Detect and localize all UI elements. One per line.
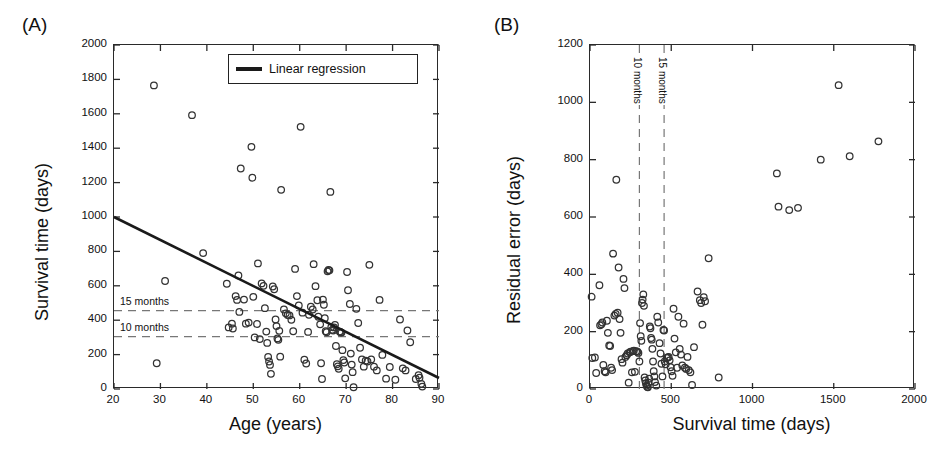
- panel-a-ytick-400: 400: [63, 312, 107, 324]
- panel-a-ytick-1400: 1400: [63, 140, 107, 152]
- panel-b-xtick-500: 500: [645, 393, 695, 405]
- panel-b-xtick-2000: 2000: [889, 393, 939, 405]
- panel-b-label: (B): [494, 14, 519, 36]
- panel-a-legend[interactable]: Linear regression: [228, 54, 418, 84]
- panel-a-ytick-1200: 1200: [63, 175, 107, 187]
- panel-b-ytick-800: 800: [539, 152, 583, 164]
- panel-a-ytick-800: 800: [63, 243, 107, 255]
- panel-b-xtick-1500: 1500: [808, 393, 858, 405]
- panel-b-y-axis-label: Residual error (days): [504, 156, 525, 324]
- panel-a-xtick-40: 40: [181, 393, 231, 405]
- panel-a-plot-area: [113, 44, 438, 388]
- panel-a-x-axis-label: Age (years): [113, 414, 438, 435]
- panel-b-ytick-1000: 1000: [539, 94, 583, 106]
- panel-a-ytick-2000: 2000: [63, 37, 107, 49]
- legend-label-linear-regression: Linear regression: [269, 62, 366, 76]
- figure-container: (A) Survival time (days) Age (years) 020…: [0, 0, 952, 462]
- panel-a-xtick-50: 50: [227, 393, 277, 405]
- panel-a: (A) Survival time (days) Age (years) 020…: [0, 0, 476, 462]
- panel-b: (B) Residual error (days) Survival time …: [476, 0, 952, 462]
- panel-b-ytick-0: 0: [539, 381, 583, 393]
- panel-b-ytick-600: 600: [539, 209, 583, 221]
- panel-a-ytick-1600: 1600: [63, 106, 107, 118]
- panel-a-label: (A): [22, 14, 47, 36]
- panel-a-ytick-1800: 1800: [63, 71, 107, 83]
- panel-a-xtick-30: 30: [134, 393, 184, 405]
- panel-b-threshold-label-10mo: 10 months: [632, 56, 643, 105]
- panel-a-scatter-svg: [114, 45, 439, 389]
- linear-regression-swatch: [236, 67, 262, 70]
- panel-a-xtick-60: 60: [274, 393, 324, 405]
- panel-a-threshold-label-15mo: 15 months: [119, 295, 170, 307]
- panel-a-threshold-label-10mo: 10 months: [119, 321, 170, 333]
- panel-a-ytick-1000: 1000: [63, 209, 107, 221]
- panel-b-ytick-1200: 1200: [539, 37, 583, 49]
- panel-a-y-axis-label: Survival time (days): [32, 163, 53, 321]
- panel-b-xtick-1000: 1000: [727, 393, 777, 405]
- panel-b-ytick-200: 200: [539, 324, 583, 336]
- panel-b-xtick-0: 0: [564, 393, 614, 405]
- panel-a-xtick-80: 80: [367, 393, 417, 405]
- panel-b-ytick-400: 400: [539, 266, 583, 278]
- panel-a-xtick-90: 90: [413, 393, 463, 405]
- panel-a-ytick-200: 200: [63, 347, 107, 359]
- panel-a-xtick-20: 20: [88, 393, 138, 405]
- panel-a-ytick-600: 600: [63, 278, 107, 290]
- panel-a-ytick-0: 0: [63, 381, 107, 393]
- panel-b-threshold-label-15mo: 15 months: [657, 56, 668, 105]
- panel-a-xtick-70: 70: [320, 393, 370, 405]
- panel-b-x-axis-label: Survival time (days): [589, 414, 914, 435]
